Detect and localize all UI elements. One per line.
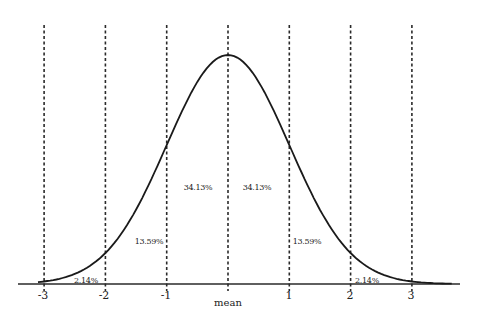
pct-label-2-3: 2.14% xyxy=(355,276,379,285)
tick-label-neg1: -1 xyxy=(161,289,172,302)
pct-label-neg2-neg1: 13.59% xyxy=(135,237,164,246)
bell-curve xyxy=(38,55,452,284)
normal-distribution-chart xyxy=(0,0,479,322)
tick-label-2: 2 xyxy=(347,289,354,302)
tick-label-neg2: -2 xyxy=(99,289,110,302)
mean-label: mean xyxy=(214,297,242,308)
tick-label-3: 3 xyxy=(408,289,415,302)
tick-label-neg3: -3 xyxy=(38,289,49,302)
tick-label-1: 1 xyxy=(286,289,293,302)
sd-dashed-lines xyxy=(44,25,412,291)
pct-label-neg3-neg2: 2.14% xyxy=(74,276,98,285)
pct-label-0-1: 34.13% xyxy=(243,183,272,192)
pct-label-1-2: 13.59% xyxy=(293,237,322,246)
pct-label-neg1-0: 34.13% xyxy=(184,183,213,192)
